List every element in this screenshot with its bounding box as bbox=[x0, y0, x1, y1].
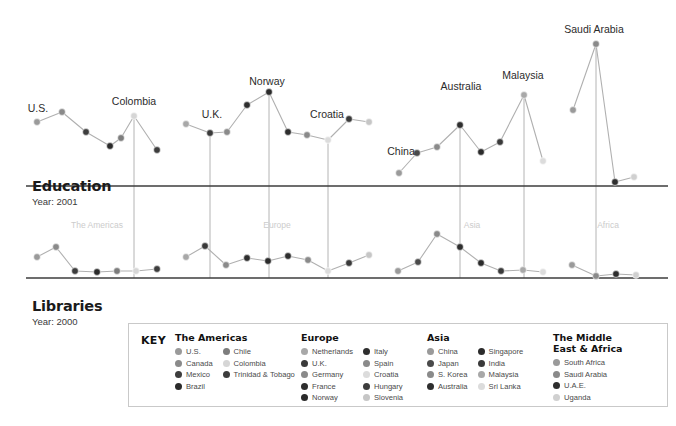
data-point[interactable] bbox=[183, 121, 190, 128]
country-annotation: China bbox=[387, 145, 415, 157]
data-point[interactable] bbox=[366, 252, 373, 259]
legend-item[interactable]: Brazil bbox=[175, 382, 213, 391]
legend-item[interactable]: Spain bbox=[363, 359, 403, 368]
legend-item[interactable]: Netherlands bbox=[301, 347, 353, 356]
legend-swatch-icon bbox=[223, 360, 230, 367]
data-point[interactable] bbox=[265, 258, 272, 265]
data-point[interactable] bbox=[613, 271, 620, 278]
data-point[interactable] bbox=[521, 92, 528, 99]
data-point[interactable] bbox=[434, 231, 441, 238]
legend-swatch-icon bbox=[223, 348, 230, 355]
data-point[interactable] bbox=[396, 170, 403, 177]
data-point[interactable] bbox=[131, 113, 138, 120]
legend-item[interactable]: Norway bbox=[301, 393, 353, 402]
data-point[interactable] bbox=[325, 268, 332, 275]
legend-item[interactable]: China bbox=[427, 347, 468, 356]
data-point[interactable] bbox=[498, 268, 505, 275]
data-point[interactable] bbox=[395, 268, 402, 275]
data-point[interactable] bbox=[207, 130, 214, 137]
legend-item[interactable]: Germany bbox=[301, 370, 353, 379]
legend-item[interactable]: Japan bbox=[427, 359, 468, 368]
legend-columns: ChinaJapanS. KoreaAustraliaSingaporeIndi… bbox=[427, 347, 523, 391]
data-point[interactable] bbox=[457, 122, 464, 129]
legend-columns: U.S.CanadaMexicoBrazilChileColombiaTrini… bbox=[175, 347, 295, 391]
legend-item[interactable]: U.A.E. bbox=[553, 381, 607, 390]
data-point[interactable] bbox=[415, 259, 422, 266]
data-point[interactable] bbox=[266, 89, 273, 96]
data-point[interactable] bbox=[154, 266, 161, 273]
legend-item[interactable]: Croatia bbox=[363, 370, 403, 379]
data-point[interactable] bbox=[346, 260, 353, 267]
data-point[interactable] bbox=[94, 269, 101, 276]
data-point[interactable] bbox=[154, 147, 161, 154]
data-point[interactable] bbox=[244, 255, 251, 262]
data-point[interactable] bbox=[183, 254, 190, 261]
data-point[interactable] bbox=[83, 129, 90, 136]
legend-item-label: Japan bbox=[438, 359, 459, 368]
legend-item[interactable]: U.S. bbox=[175, 347, 213, 356]
legend-item[interactable]: India bbox=[478, 359, 524, 368]
data-point[interactable] bbox=[457, 244, 464, 251]
data-point[interactable] bbox=[633, 272, 640, 279]
data-point[interactable] bbox=[325, 137, 332, 144]
data-point[interactable] bbox=[202, 243, 209, 250]
data-point[interactable] bbox=[285, 129, 292, 136]
legend-column: South AfricaSaudi ArabiaU.A.E.Uganda bbox=[553, 358, 607, 402]
legend-item[interactable]: France bbox=[301, 382, 353, 391]
data-point[interactable] bbox=[520, 267, 527, 274]
legend-item-label: Sri Lanka bbox=[489, 382, 521, 391]
data-point[interactable] bbox=[612, 179, 619, 186]
legend-item[interactable]: S. Korea bbox=[427, 370, 468, 379]
data-point[interactable] bbox=[114, 268, 121, 275]
legend-item[interactable]: Chile bbox=[223, 347, 295, 356]
data-point[interactable] bbox=[285, 253, 292, 260]
data-point[interactable] bbox=[34, 254, 41, 261]
legend-item[interactable]: South Africa bbox=[553, 358, 607, 367]
legend-item[interactable]: Hungary bbox=[363, 382, 403, 391]
data-point[interactable] bbox=[478, 149, 485, 156]
data-point[interactable] bbox=[540, 269, 547, 276]
legend-item[interactable]: Colombia bbox=[223, 359, 295, 368]
data-point[interactable] bbox=[631, 174, 638, 181]
legend-item[interactable]: Canada bbox=[175, 359, 213, 368]
legend-item[interactable]: Saudi Arabia bbox=[553, 370, 607, 379]
data-point[interactable] bbox=[593, 273, 600, 280]
legend-item[interactable]: Slovenia bbox=[363, 393, 403, 402]
legend-column: NetherlandsU.K.GermanyFranceNorway bbox=[301, 347, 353, 402]
data-point[interactable] bbox=[224, 129, 231, 136]
data-point[interactable] bbox=[366, 119, 373, 126]
data-point[interactable] bbox=[59, 109, 66, 116]
data-point[interactable] bbox=[497, 139, 504, 146]
data-point[interactable] bbox=[540, 158, 547, 165]
data-point[interactable] bbox=[223, 262, 230, 269]
data-point[interactable] bbox=[304, 132, 311, 139]
data-point[interactable] bbox=[53, 244, 60, 251]
data-point[interactable] bbox=[107, 143, 114, 150]
data-point[interactable] bbox=[72, 268, 79, 275]
data-point[interactable] bbox=[569, 262, 576, 269]
legend-item[interactable]: Sri Lanka bbox=[478, 382, 524, 391]
legend-item-label: U.A.E. bbox=[564, 381, 586, 390]
data-point[interactable] bbox=[346, 116, 353, 123]
legend-item[interactable]: Trinidad & Tobago bbox=[223, 370, 295, 379]
legend-swatch-icon bbox=[301, 360, 308, 367]
legend-item[interactable]: Mexico bbox=[175, 370, 213, 379]
data-point[interactable] bbox=[593, 41, 600, 48]
legend-column: ChinaJapanS. KoreaAustralia bbox=[427, 347, 468, 391]
country-annotation: Norway bbox=[249, 75, 285, 87]
legend-item[interactable]: Australia bbox=[427, 382, 468, 391]
data-point[interactable] bbox=[305, 257, 312, 264]
data-point[interactable] bbox=[133, 268, 140, 275]
legend-item[interactable]: U.K. bbox=[301, 359, 353, 368]
data-point[interactable] bbox=[34, 119, 41, 126]
data-point[interactable] bbox=[434, 144, 441, 151]
legend-item[interactable]: Italy bbox=[363, 347, 403, 356]
legend-item[interactable]: Singapore bbox=[478, 347, 524, 356]
legend-columns: South AfricaSaudi ArabiaU.A.E.Uganda bbox=[553, 358, 622, 402]
data-point[interactable] bbox=[478, 260, 485, 267]
data-point[interactable] bbox=[118, 135, 125, 142]
legend-item[interactable]: Uganda bbox=[553, 393, 607, 402]
data-point[interactable] bbox=[244, 102, 251, 109]
legend-item[interactable]: Malaysia bbox=[478, 370, 524, 379]
data-point[interactable] bbox=[570, 107, 577, 114]
